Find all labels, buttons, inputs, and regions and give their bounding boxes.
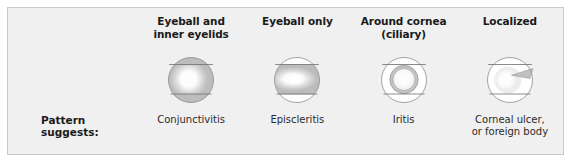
diagnosis-label-corneal-ulcer: Corneal ulcer, or foreign body — [450, 114, 570, 138]
diagnosis-label-conjunctivitis: Conjunctivitis — [131, 114, 251, 126]
eye-illustration-eyeball-only — [267, 49, 327, 109]
eye-illustration-ciliary-ring — [374, 49, 434, 109]
eye-illustration-localized-wedge — [480, 49, 540, 109]
eye-illustration-diffuse-all — [161, 49, 221, 109]
pattern-column-iritis: Around cornea (ciliary) — [351, 8, 457, 154]
column-header-eyeball-only: Eyeball only — [262, 15, 333, 28]
pattern-suggests-label: Pattern suggests: — [41, 114, 138, 138]
diagnosis-label-episcleritis: Episcleritis — [237, 114, 357, 126]
eye-localized-wedge-icon — [480, 49, 540, 109]
eye-diffuse-all-icon — [161, 49, 221, 109]
pattern-column-corneal-ulcer: Localized — [457, 8, 563, 154]
diagnosis-label-iritis: Iritis — [344, 114, 464, 126]
eye-redness-pattern-figure: Pattern suggests: Eyeball and inner eyel… — [7, 7, 564, 155]
pattern-columns: Eyeball and inner eyelids — [138, 8, 563, 154]
pattern-column-conjunctivitis: Eyeball and inner eyelids — [138, 8, 244, 154]
eye-eyeball-only-icon — [267, 49, 327, 109]
column-header-eyeball-and-inner-eyelids: Eyeball and inner eyelids — [153, 15, 228, 40]
column-header-around-cornea: Around cornea (ciliary) — [361, 15, 447, 40]
eye-ciliary-ring-icon — [374, 49, 434, 109]
column-header-localized: Localized — [483, 15, 537, 28]
pattern-column-episcleritis: Eyeball only — [244, 8, 350, 154]
